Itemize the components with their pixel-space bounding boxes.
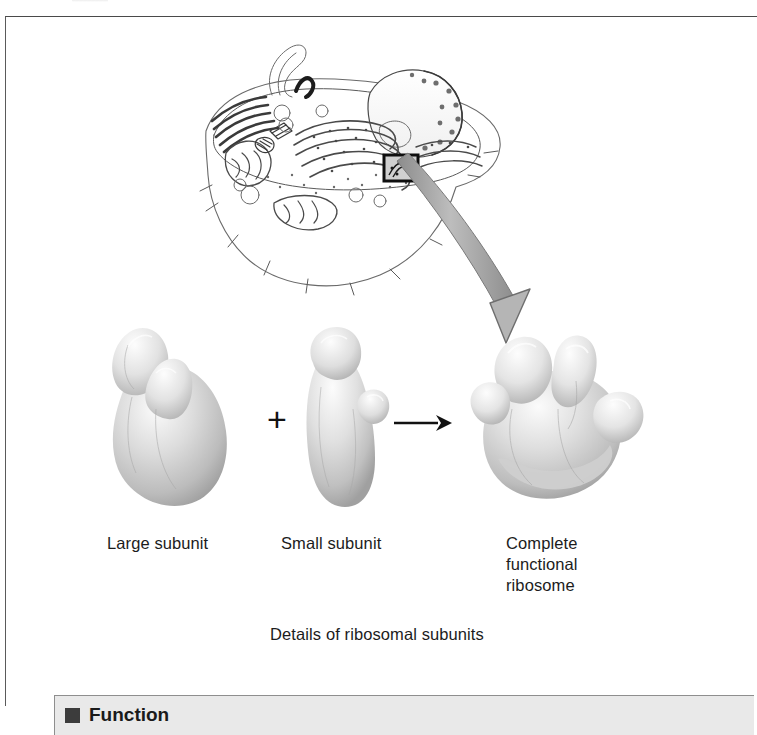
function-panel: Function — [54, 695, 754, 735]
plus-operator: + — [260, 399, 294, 439]
yields-arrow-icon — [392, 409, 454, 437]
cropped-heading-remnant — [72, 0, 108, 2]
square-bullet-icon — [65, 708, 80, 723]
label-complete-ribosome: Complete functional ribosome — [506, 533, 656, 596]
figure-frame: + Large subunit Small subunit Complete f… — [5, 16, 757, 706]
function-panel-header: Function — [65, 704, 169, 726]
callout-box-marker — [384, 155, 418, 181]
label-small-subunit: Small subunit — [281, 533, 431, 554]
complete-ribosome-illustration — [458, 317, 653, 517]
label-large-subunit: Large subunit — [107, 533, 257, 554]
caption-details-of-ribosomal-subunits: Details of ribosomal subunits — [6, 625, 748, 644]
large-subunit-illustration — [84, 317, 264, 522]
function-heading: Function — [89, 704, 169, 726]
cell-diagram — [184, 35, 514, 297]
